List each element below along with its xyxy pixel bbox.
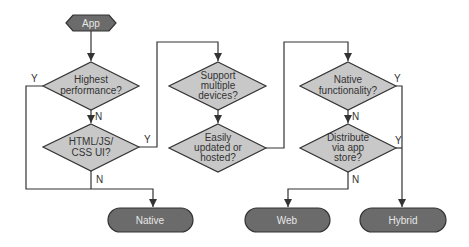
decision-text: HTML/JS/ xyxy=(69,136,114,147)
outcome-web: Web xyxy=(245,208,330,232)
outcome-hybrid: Hybrid xyxy=(360,208,446,232)
edge-label-yes: Y xyxy=(395,135,402,146)
edge-native-functionality-yes xyxy=(396,86,402,207)
outcome-label: Hybrid xyxy=(389,215,418,226)
edge-label-no: N xyxy=(352,174,359,185)
edge-label-yes: Y xyxy=(394,73,401,84)
outcome-label: Web xyxy=(277,215,298,226)
decision-support-multiple-devices: Support multiple devices? xyxy=(169,62,266,110)
outcome-native: Native xyxy=(108,208,193,232)
outcome-label: Native xyxy=(136,215,165,226)
decision-text: store? xyxy=(334,152,362,163)
decision-text: Highest xyxy=(74,74,108,85)
start-node-app: App xyxy=(66,15,116,31)
decision-text: CSS UI? xyxy=(72,147,111,158)
edge-app-store-no xyxy=(288,172,348,207)
edge-label-yes: Y xyxy=(31,73,38,84)
edge-label-no: N xyxy=(96,174,103,185)
start-label: App xyxy=(82,18,100,29)
decision-text: Native xyxy=(334,74,363,85)
decision-distribute-app-store: Distribute via app store? xyxy=(300,124,396,172)
decision-text: performance? xyxy=(60,85,122,96)
decision-highest-performance: Highest performance? xyxy=(43,62,139,110)
edge-label-no: N xyxy=(95,111,102,122)
decision-easily-updated: Easily updated or hosted? xyxy=(169,124,266,172)
decision-text: devices? xyxy=(198,90,238,101)
decision-text: hosted? xyxy=(200,152,236,163)
edge-label-yes: Y xyxy=(144,134,151,145)
decision-html-js-css-ui: HTML/JS/ CSS UI? xyxy=(43,124,139,171)
edge-label-no: N xyxy=(352,111,359,122)
decision-native-functionality: Native functionality? xyxy=(300,62,396,110)
decision-text: functionality? xyxy=(319,85,378,96)
flowchart: App Highest performance? HTML/JS/ CSS UI… xyxy=(0,0,469,247)
